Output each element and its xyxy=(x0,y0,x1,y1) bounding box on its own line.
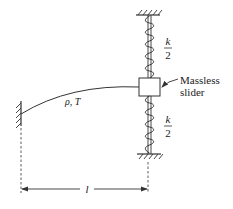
massless-slider xyxy=(139,78,160,96)
string-label: ρ, T xyxy=(64,96,82,107)
string-slider-diagram: k 2 k 2 Massless slider ρ, T l xyxy=(0,0,233,209)
bottom-ground-support xyxy=(137,154,163,159)
top-spring-k: k xyxy=(166,35,172,47)
bottom-spring xyxy=(145,96,153,153)
length-label: l xyxy=(85,183,88,195)
top-spring-denominator: 2 xyxy=(165,49,171,61)
bottom-spring-k: k xyxy=(166,113,172,125)
slider-annotation: Massless slider xyxy=(162,74,220,98)
left-wall-support xyxy=(16,101,21,128)
slider-label-line1: Massless xyxy=(180,74,220,86)
top-spring-label: k 2 xyxy=(164,35,172,61)
bottom-spring-label: k 2 xyxy=(164,113,172,139)
slider-pointer-arrow xyxy=(162,79,178,87)
top-spring xyxy=(145,16,153,78)
slider-label-line2: slider xyxy=(180,86,205,98)
top-ground-support xyxy=(136,10,162,15)
bottom-spring-denominator: 2 xyxy=(165,127,171,139)
